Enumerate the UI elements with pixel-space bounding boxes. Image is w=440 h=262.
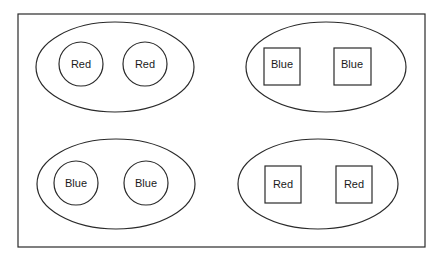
square-item: Red xyxy=(265,166,301,203)
item-label: Red xyxy=(135,58,155,70)
item-label: Blue xyxy=(341,58,363,70)
group-bottom-right: Red Red xyxy=(238,139,398,229)
group-top-left: Red Red xyxy=(36,22,194,112)
grouping-diagram: Red Red Blue Blue Blue Blue xyxy=(0,0,440,262)
group-top-right: Blue Blue xyxy=(246,22,406,112)
item-label: Blue xyxy=(271,58,293,70)
square-item: Blue xyxy=(334,48,371,85)
item-label: Blue xyxy=(135,177,157,189)
outer-frame xyxy=(18,14,425,247)
circle-item: Red xyxy=(59,42,103,86)
item-label: Blue xyxy=(65,177,87,189)
circle-item: Blue xyxy=(54,161,98,205)
group-ellipse xyxy=(37,139,195,229)
square-item: Red xyxy=(336,166,372,203)
group-bottom-left: Blue Blue xyxy=(37,139,195,229)
item-label: Red xyxy=(273,178,293,190)
circle-item: Red xyxy=(123,42,167,86)
item-label: Red xyxy=(344,178,364,190)
square-item: Blue xyxy=(264,48,300,85)
group-ellipse xyxy=(238,139,398,229)
circle-item: Blue xyxy=(124,161,168,205)
item-label: Red xyxy=(71,58,91,70)
